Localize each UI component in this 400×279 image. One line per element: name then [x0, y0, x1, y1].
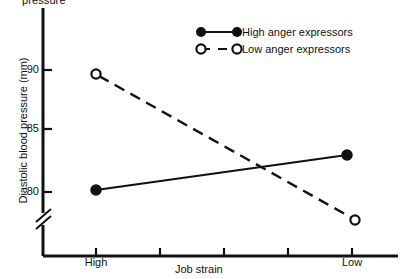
chart-figure: pressure Diastolic blood pressure (mm) 9… [0, 0, 400, 279]
legend-open-circle-icon-end [232, 44, 241, 53]
legend-open-circle-icon [196, 44, 205, 53]
series-line-high [96, 155, 347, 190]
legend-label-high-anger-expressors: High anger expressors [242, 27, 353, 38]
chart-canvas [0, 0, 400, 279]
series-high-anger-expressors [91, 150, 352, 195]
x-axis-title: Job strain [175, 264, 223, 275]
data-point-high-strain-high-anger [91, 185, 101, 195]
x-tick-label-high: High [72, 257, 120, 268]
y-tick-label-85: 85 [13, 123, 39, 134]
x-tick-label-low: Low [328, 257, 376, 268]
legend-swatch-high-anger [196, 27, 242, 37]
y-tick-label-90: 90 [13, 64, 39, 75]
data-point-high-strain-low-anger [91, 69, 100, 78]
series-low-anger-expressors [91, 69, 359, 224]
legend-label-low-anger-expressors: Low anger expressors [242, 44, 350, 55]
data-point-low-strain-low-anger [350, 215, 359, 224]
data-point-low-strain-high-anger [342, 150, 352, 160]
cropped-top-label: pressure [22, 0, 66, 6]
series-line-low [99, 76, 352, 218]
legend-filled-circle-icon [196, 27, 206, 37]
legend-filled-circle-icon-end [232, 27, 242, 37]
y-tick-label-80: 80 [13, 186, 39, 197]
legend-swatch-low-anger [196, 44, 241, 53]
